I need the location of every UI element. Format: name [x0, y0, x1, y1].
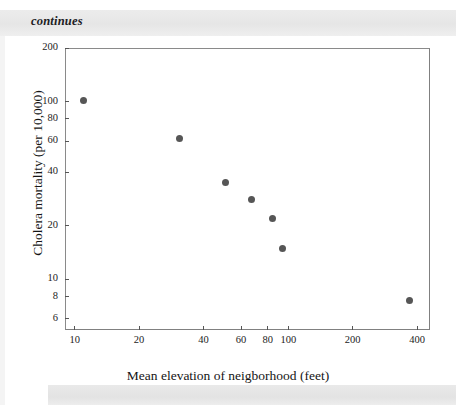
x-tick-label: 400	[397, 334, 437, 345]
data-point	[80, 97, 87, 104]
data-point	[269, 215, 276, 222]
data-point	[222, 179, 229, 186]
x-tick-label: 10	[55, 334, 95, 345]
y-axis-title: Cholera mortality (per 10,000)	[30, 58, 46, 288]
scatter-chart-figure: 200100806040201086 1020406080100200400 C…	[0, 0, 456, 405]
x-tick-label: 20	[119, 334, 159, 345]
data-point	[248, 196, 255, 203]
x-tick-label: 100	[268, 334, 308, 345]
plot-area	[65, 48, 430, 330]
y-tick-label: 200	[14, 41, 58, 52]
x-tick-label: 200	[333, 334, 373, 345]
data-point	[176, 135, 183, 142]
y-tick-label: 6	[14, 312, 58, 323]
y-tick-label: 8	[14, 290, 58, 301]
data-point	[279, 245, 286, 252]
data-point	[406, 297, 413, 304]
x-axis-title: Mean elevation of neigborhood (feet)	[0, 368, 456, 384]
x-tick-label: 40	[183, 334, 223, 345]
